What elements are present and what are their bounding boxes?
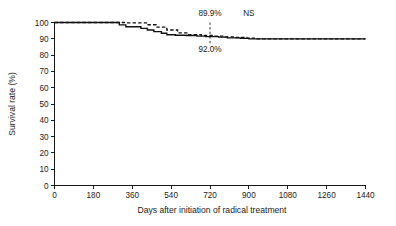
x-tick-labels: 0180360540720900108012601440 (52, 191, 375, 200)
x-tick-label: 720 (203, 191, 217, 200)
x-tick-marks (55, 186, 366, 189)
x-tick-label: 540 (164, 191, 178, 200)
x-tick-label: 360 (125, 191, 139, 200)
lower-survival-label: 92.0% (198, 45, 221, 54)
y-tick-label: 20 (39, 149, 49, 158)
significance-label: NS (243, 9, 255, 18)
x-tick-label: 900 (242, 191, 256, 200)
x-tick-label: 1080 (279, 191, 298, 200)
x-tick-label: 180 (87, 191, 101, 200)
upper-survival-label: 89.9% (198, 9, 221, 18)
x-tick-label: 1440 (356, 191, 375, 200)
y-tick-label: 0 (44, 182, 49, 191)
survival-chart: 0102030405060708090100 01803605407209001… (0, 0, 396, 226)
chart-annotations: 89.9%92.0%NS (198, 9, 255, 54)
y-tick-label: 50 (39, 100, 49, 109)
y-tick-label: 60 (39, 84, 49, 93)
y-axis-title: Survival rate (%) (7, 72, 17, 136)
y-tick-label: 70 (39, 67, 49, 76)
y-tick-label: 90 (39, 35, 49, 44)
y-tick-label: 80 (39, 51, 49, 60)
y-tick-label: 30 (39, 133, 49, 142)
x-axis-title: Days after initiation of radical treatme… (137, 205, 287, 215)
y-tick-label: 10 (39, 165, 49, 174)
x-tick-label: 0 (52, 191, 57, 200)
y-tick-label: 100 (35, 19, 49, 28)
x-tick-label: 1260 (318, 191, 337, 200)
kaplan-meier-plot: 0102030405060708090100 01803605407209001… (0, 0, 396, 226)
y-tick-label: 40 (39, 116, 49, 125)
y-tick-labels: 0102030405060708090100 (35, 19, 49, 191)
